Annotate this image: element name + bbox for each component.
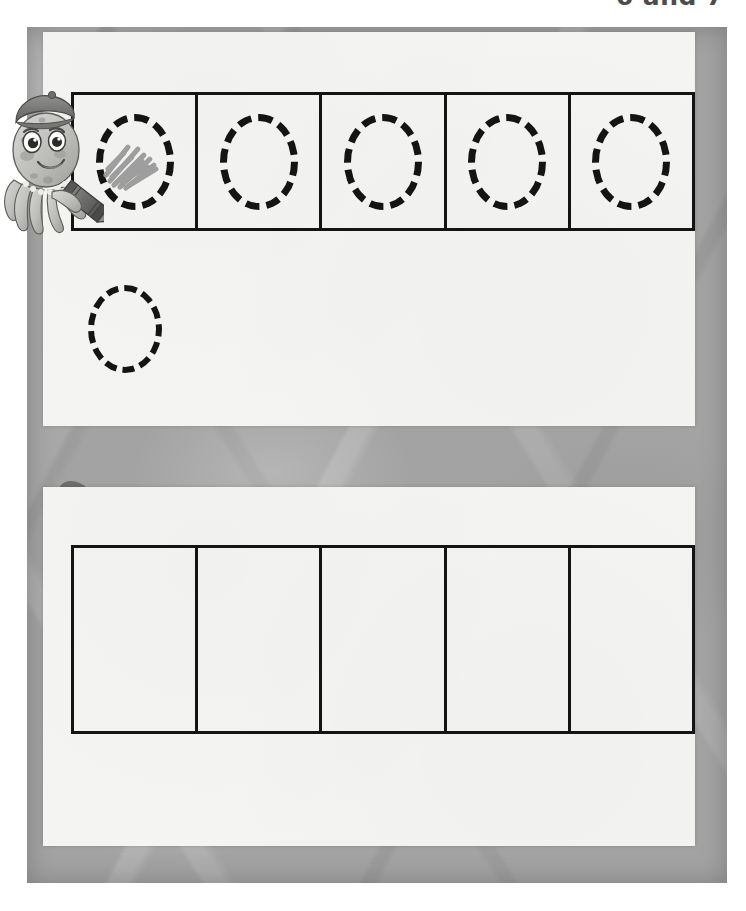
exercise-2-box-grid <box>71 545 695 734</box>
dashed-circle-icon <box>344 114 422 210</box>
dashed-circle-icon <box>468 114 546 210</box>
empty-box-cell[interactable] <box>571 548 692 731</box>
trace-box-cell[interactable] <box>571 95 692 228</box>
empty-box-cell[interactable] <box>74 548 198 731</box>
empty-box-cell[interactable] <box>322 548 446 731</box>
trace-box-cell[interactable] <box>322 95 446 228</box>
dashed-circle-icon <box>220 114 298 210</box>
practice-dashed-circle-icon[interactable] <box>88 285 162 373</box>
empty-box-cell[interactable] <box>447 548 571 731</box>
page-title: 6 and 7 <box>424 0 724 10</box>
empty-box-cell[interactable] <box>198 548 322 731</box>
trace-box-cell[interactable] <box>198 95 322 228</box>
dashed-circle-icon <box>592 114 670 210</box>
trace-box-cell[interactable] <box>447 95 571 228</box>
octopus-mascot-icon <box>0 88 104 240</box>
dashed-circle-icon <box>96 114 174 210</box>
exercise-1-box-grid <box>71 92 695 231</box>
page-header: 6 and 7 <box>424 0 724 10</box>
